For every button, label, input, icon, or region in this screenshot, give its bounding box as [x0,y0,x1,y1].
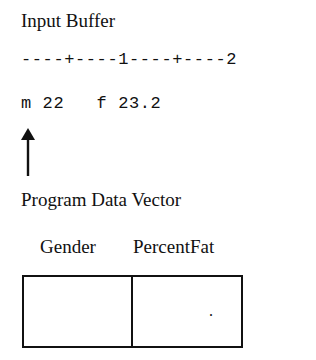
pdv-cell-gender [24,277,133,346]
column-ruler: ----+----1----+----2 [21,50,237,69]
pdv-column-header-percentfat: PercentFat [133,236,214,258]
pdv-title: Program Data Vector [21,189,181,211]
pdv-table: . [22,275,243,348]
input-pointer-arrow-icon [21,128,35,176]
pdv-column-header-gender: Gender [40,236,96,258]
input-buffer-content: m 22 f 23.2 [21,94,161,113]
pdv-cell-percentfat: . [133,277,241,346]
input-buffer-title: Input Buffer [21,10,115,32]
pdv-value-percentfat-missing: . [209,303,213,319]
